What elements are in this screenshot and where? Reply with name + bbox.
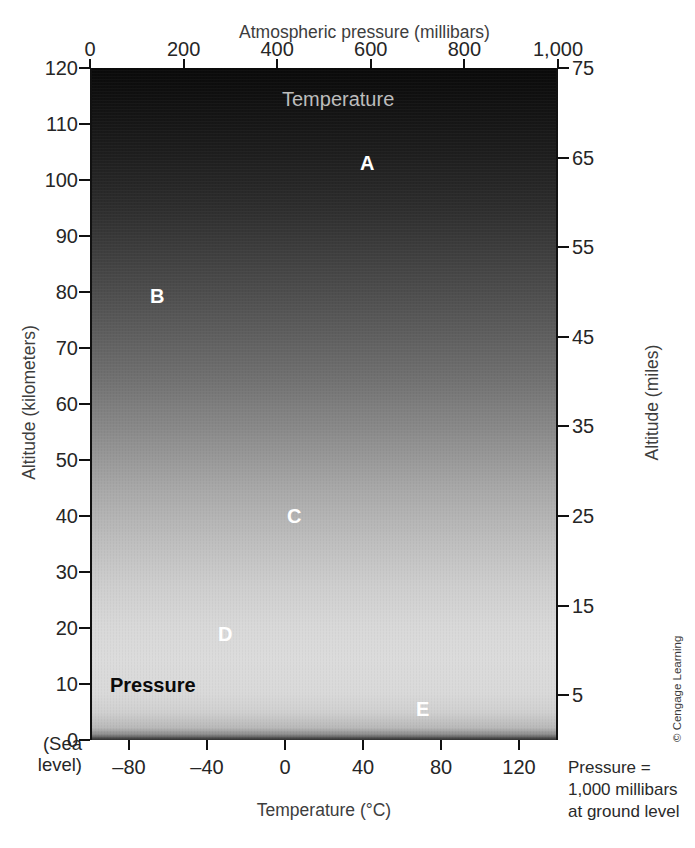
sea-level-line-2: level): [4, 754, 82, 775]
left-tick-mark: [79, 515, 90, 517]
top-tick-mark: [370, 59, 372, 68]
pressure-series-label: Pressure: [110, 674, 196, 697]
left-tick-label-10: 10: [56, 673, 78, 696]
point-label-d: D: [218, 623, 232, 646]
left-tick-mark: [79, 683, 90, 685]
top-tick-label-600: 600: [354, 38, 387, 61]
background-texture: [92, 68, 556, 740]
top-tick-label-800: 800: [448, 38, 481, 61]
sea-level-annotation: (Sea level): [4, 733, 82, 775]
left-tick-label-20: 20: [56, 617, 78, 640]
right-tick-mark: [558, 246, 569, 248]
right-tick-label-55: 55: [572, 236, 594, 259]
bottom-tick-label-3: 40: [352, 756, 374, 779]
point-label-c: C: [287, 505, 301, 528]
top-tick-label-400: 400: [261, 38, 294, 61]
bottom-tick-mark: [518, 740, 520, 750]
right-tick-mark: [558, 515, 569, 517]
bottom-tick-label-4: 80: [430, 756, 452, 779]
bottom-axis-title: Temperature (°C): [90, 800, 558, 821]
bottom-tick-mark: [128, 740, 130, 750]
right-tick-mark: [558, 157, 569, 159]
top-tick-mark: [183, 59, 185, 68]
right-tick-label-45: 45: [572, 325, 594, 348]
left-tick-label-80: 80: [56, 281, 78, 304]
left-tick-label-70: 70: [56, 337, 78, 360]
left-tick-label-100: 100: [45, 169, 78, 192]
left-tick-mark: [79, 291, 90, 293]
bottom-tick-mark: [440, 740, 442, 750]
left-axis-scale: 1201101009080706050403020100: [0, 0, 78, 848]
point-label-b: B: [150, 285, 164, 308]
temperature-series-label: Temperature: [282, 88, 394, 111]
right-tick-mark: [558, 605, 569, 607]
sea-level-line-1: (Sea: [4, 733, 82, 754]
right-axis-title: Altitude (miles): [642, 278, 663, 528]
left-tick-label-30: 30: [56, 561, 78, 584]
left-tick-label-50: 50: [56, 449, 78, 472]
top-tick-mark: [276, 59, 278, 68]
point-label-a: A: [360, 152, 374, 175]
left-tick-mark: [79, 67, 90, 69]
right-tick-label-15: 15: [572, 594, 594, 617]
pressure-caption: Pressure = 1,000 millibars at ground lev…: [568, 757, 680, 823]
right-tick-label-35: 35: [572, 415, 594, 438]
top-tick-mark: [463, 59, 465, 68]
copyright-credit: © Cengage Learning: [671, 636, 683, 742]
top-tick-label-200: 200: [167, 38, 200, 61]
top-tick-label-0: 0: [84, 38, 95, 61]
bottom-tick-mark: [362, 740, 364, 750]
left-tick-mark: [79, 627, 90, 629]
plot-area: Temperature Pressure ABCDE: [90, 68, 558, 740]
right-tick-mark: [558, 425, 569, 427]
left-tick-mark: [79, 235, 90, 237]
left-tick-mark: [79, 403, 90, 405]
left-tick-label-120: 120: [45, 57, 78, 80]
right-tick-label-5: 5: [572, 684, 583, 707]
left-tick-mark: [79, 459, 90, 461]
right-axis-scale: 756555453525155: [572, 0, 632, 848]
left-tick-label-110: 110: [46, 113, 78, 136]
left-tick-label-90: 90: [56, 225, 78, 248]
atmosphere-profile-figure: Atmospheric pressure (millibars) Tempera…: [0, 0, 695, 848]
left-tick-label-60: 60: [56, 393, 78, 416]
left-tick-mark: [79, 739, 90, 741]
left-tick-mark: [79, 123, 90, 125]
bottom-tick-label-0: –80: [112, 756, 145, 779]
bottom-tick-label-1: –40: [190, 756, 223, 779]
left-tick-mark: [79, 179, 90, 181]
left-tick-label-40: 40: [56, 505, 78, 528]
left-tick-mark: [79, 571, 90, 573]
bottom-tick-label-5: 120: [502, 756, 535, 779]
right-tick-mark: [558, 336, 569, 338]
right-tick-label-65: 65: [572, 146, 594, 169]
left-tick-mark: [79, 347, 90, 349]
right-tick-mark: [558, 694, 569, 696]
bottom-tick-mark: [206, 740, 208, 750]
point-label-e: E: [416, 698, 429, 721]
right-tick-label-75: 75: [572, 57, 594, 80]
bottom-tick-label-2: 0: [279, 756, 290, 779]
right-tick-mark: [558, 67, 569, 69]
bottom-tick-mark: [284, 740, 286, 750]
right-tick-label-25: 25: [572, 505, 594, 528]
